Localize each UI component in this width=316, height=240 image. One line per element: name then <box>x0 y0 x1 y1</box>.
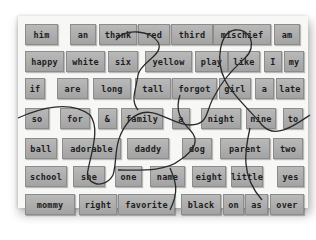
word-tile: little <box>231 166 263 187</box>
word-tile: ball <box>25 138 57 159</box>
word-tile: like <box>228 51 260 72</box>
word-tile: yellow <box>145 51 192 72</box>
word-tile: parent <box>220 138 270 159</box>
word-tile: a <box>255 78 274 99</box>
word-tile: him <box>25 24 58 45</box>
word-tile: I <box>264 51 282 72</box>
word-tile: name <box>150 166 185 187</box>
word-tile: if <box>25 78 45 99</box>
word-tile: on <box>223 194 244 215</box>
word-tile: mischief <box>213 24 271 45</box>
word-tile: night <box>201 108 241 129</box>
word-tile: red <box>138 24 170 45</box>
word-tile: dog <box>182 138 212 159</box>
word-tile: long <box>93 78 131 99</box>
word-tile: happy <box>25 51 64 72</box>
word-tile: tall <box>135 78 171 99</box>
word-tile: daddy <box>127 138 169 159</box>
word-tile: nine <box>246 108 276 129</box>
word-tile: as <box>245 194 268 215</box>
word-tile: six <box>108 51 138 72</box>
word-tile: she <box>73 166 105 187</box>
word-tile: black <box>181 194 221 215</box>
word-tile: eight <box>192 166 226 187</box>
word-tile: adorable <box>62 138 121 159</box>
word-tile: school <box>25 166 67 187</box>
word-tile: & <box>98 108 117 129</box>
word-tile: yes <box>277 166 304 187</box>
word-tile: family <box>121 108 163 129</box>
word-tile: girl <box>219 78 251 99</box>
word-tile: over <box>270 194 304 215</box>
word-tile: my <box>284 51 304 72</box>
word-tile: an <box>70 24 96 45</box>
word-tile: a <box>172 108 190 129</box>
word-tile: third <box>171 24 213 45</box>
word-tile: favorite <box>118 194 175 215</box>
word-tile: am <box>274 24 300 45</box>
word-tile: white <box>66 51 105 72</box>
word-tile: mommy <box>25 194 75 215</box>
word-tile: play <box>195 51 228 72</box>
word-tile: one <box>115 166 142 187</box>
word-tile: two <box>273 138 303 159</box>
word-tile: right <box>79 194 117 215</box>
word-tile: so <box>25 108 49 129</box>
word-tile: are <box>57 78 88 99</box>
word-tile: forgot <box>172 78 217 99</box>
word-tile: late <box>276 78 304 99</box>
word-tile: for <box>60 108 90 129</box>
word-tile: thank <box>99 24 137 45</box>
word-tile: to <box>283 108 303 129</box>
